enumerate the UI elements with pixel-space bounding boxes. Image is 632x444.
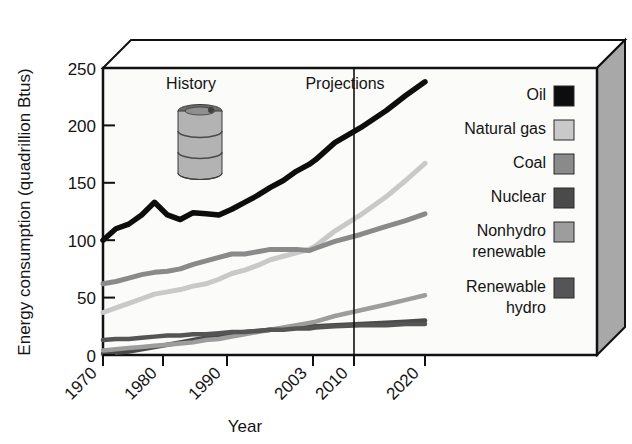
legend-label-natural-gas[interactable]: Natural gas	[464, 120, 546, 137]
legend-label-nuclear[interactable]: Nuclear	[491, 188, 547, 205]
oil-barrel-icon	[178, 105, 222, 180]
y-axis-ticks	[103, 68, 115, 355]
chart-legend: OilNatural gasCoalNuclearNonhydrorenewab…	[464, 86, 574, 316]
x-tick-label-1990: 1990	[185, 363, 225, 403]
legend-swatch-coal[interactable]	[554, 154, 574, 174]
x-axis-ticks	[103, 355, 425, 366]
chart-overlay-layer: 250 200 150 100 50 0 1970 1980 1990 2003…	[0, 0, 632, 444]
chart-figure: 250 200 150 100 50 0 1970 1980 1990 2003…	[0, 0, 632, 444]
legend-swatch-renewable-hydro[interactable]	[554, 278, 574, 298]
legend-swatch-natural-gas[interactable]	[554, 120, 574, 140]
y-tick-label-50: 50	[77, 289, 96, 308]
legend-label-nonhydro-renewable[interactable]: renewable	[472, 243, 546, 260]
legend-label-coal[interactable]: Coal	[513, 154, 546, 171]
x-tick-label-1980: 1980	[121, 363, 161, 403]
legend-label-nonhydro-renewable[interactable]: Nonhydro	[477, 222, 546, 239]
x-tick-label-1970: 1970	[61, 363, 101, 403]
legend-label-renewable-hydro[interactable]: Renewable	[466, 278, 546, 295]
x-axis-title: Year	[228, 417, 263, 436]
x-tick-label-2020: 2020	[383, 363, 423, 403]
y-tick-label-200: 200	[68, 117, 96, 136]
y-tick-label-250: 250	[68, 60, 96, 79]
x-tick-label-2003: 2003	[271, 363, 311, 403]
projections-label: Projections	[305, 75, 384, 92]
legend-swatch-nonhydro-renewable[interactable]	[554, 222, 574, 242]
history-label: History	[166, 75, 216, 92]
legend-swatch-oil[interactable]	[554, 86, 574, 106]
y-tick-label-150: 150	[68, 174, 96, 193]
x-tick-label-2010: 2010	[312, 363, 352, 403]
legend-label-oil[interactable]: Oil	[526, 86, 546, 103]
y-tick-label-0: 0	[87, 347, 96, 366]
legend-label-renewable-hydro[interactable]: hydro	[506, 299, 546, 316]
y-axis-title: Energy consumption (quadrillion Btus)	[15, 68, 34, 355]
legend-swatch-nuclear[interactable]	[554, 188, 574, 208]
y-tick-label-100: 100	[68, 232, 96, 251]
